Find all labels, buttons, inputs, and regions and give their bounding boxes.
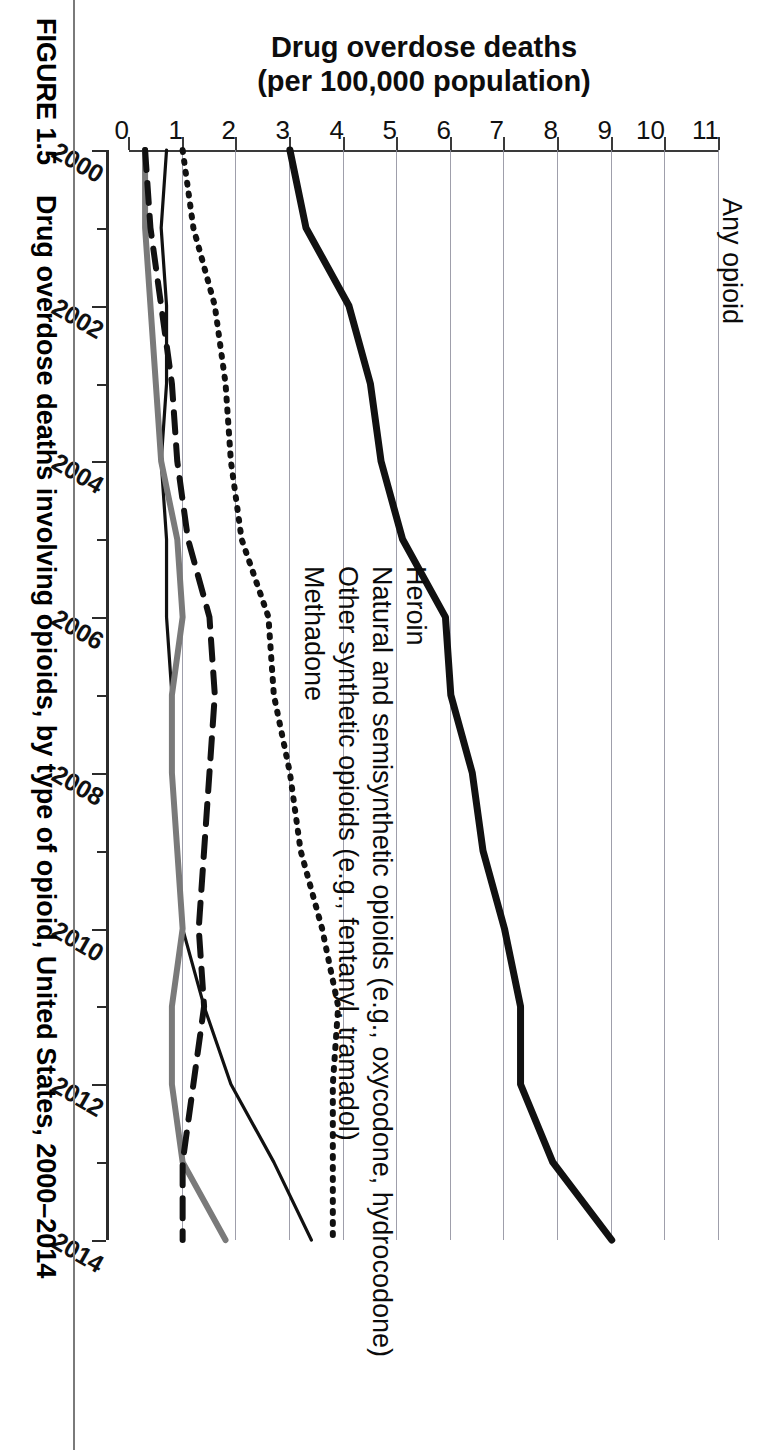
plot-area: 01234567891011 bbox=[129, 150, 719, 1240]
figure-number: FIGURE 1.5 bbox=[31, 18, 61, 165]
y-tick-label: 11 bbox=[692, 115, 719, 146]
y-tick-label: 10 bbox=[636, 115, 665, 146]
x-tick bbox=[92, 1084, 106, 1086]
series-label-natural-semisynthetic: Natural and semisynthetic opioids (e.g.,… bbox=[366, 566, 397, 1357]
x-tick-minor bbox=[97, 228, 106, 230]
y-axis-title-line1: Drug overdose deaths bbox=[271, 30, 577, 64]
x-tick bbox=[92, 461, 106, 463]
page-divider-rule bbox=[73, 0, 75, 1450]
y-tick-label: 8 bbox=[544, 115, 558, 146]
y-tick-label: 3 bbox=[275, 115, 289, 146]
series-label-other-synthetic: Other synthetic opioids (e.g., fentanyl,… bbox=[332, 566, 363, 1141]
y-tick-label: 4 bbox=[329, 115, 343, 146]
x-tick bbox=[92, 1240, 106, 1242]
y-axis-title: Drug overdose deaths (per 100,000 popula… bbox=[129, 14, 719, 114]
figure-caption-text: Drug overdose deaths involving opioids, … bbox=[31, 195, 61, 1278]
y-tick-label: 0 bbox=[115, 115, 129, 146]
series-lines bbox=[129, 150, 719, 1240]
x-axis-line bbox=[106, 150, 109, 1240]
figure-caption: FIGURE 1.5 Drug overdose deaths involvin… bbox=[30, 18, 61, 1428]
y-tick-label: 5 bbox=[383, 115, 397, 146]
rotated-page-wrapper: Drug overdose deaths (per 100,000 popula… bbox=[0, 0, 761, 1450]
y-tick-label: 2 bbox=[222, 115, 236, 146]
x-tick bbox=[92, 929, 106, 931]
y-tick-label: 1 bbox=[168, 115, 182, 146]
x-tick-minor bbox=[97, 539, 106, 541]
series-label-heroin: Heroin bbox=[400, 566, 431, 646]
x-tick bbox=[92, 306, 106, 308]
x-axis: 20002002200420062008201020122014 bbox=[106, 150, 109, 1240]
y-tick-label: 9 bbox=[597, 115, 611, 146]
x-tick bbox=[92, 617, 106, 619]
x-tick-minor bbox=[97, 1162, 106, 1164]
x-tick-minor bbox=[97, 1006, 106, 1008]
series-line bbox=[161, 150, 311, 1240]
x-tick-minor bbox=[97, 851, 106, 853]
y-axis-title-line2: (per 100,000 population) bbox=[257, 64, 591, 98]
series-label-methadone: Methadone bbox=[298, 566, 329, 701]
y-tick-label: 6 bbox=[436, 115, 450, 146]
x-tick bbox=[92, 150, 106, 152]
x-tick-minor bbox=[97, 384, 106, 386]
figure-container: Drug overdose deaths (per 100,000 popula… bbox=[0, 0, 761, 1450]
x-tick-minor bbox=[97, 695, 106, 697]
series-line bbox=[145, 150, 215, 1240]
y-tick-label: 7 bbox=[490, 115, 504, 146]
series-label-any-opioid: Any opioid bbox=[716, 198, 747, 324]
x-tick bbox=[92, 773, 106, 775]
